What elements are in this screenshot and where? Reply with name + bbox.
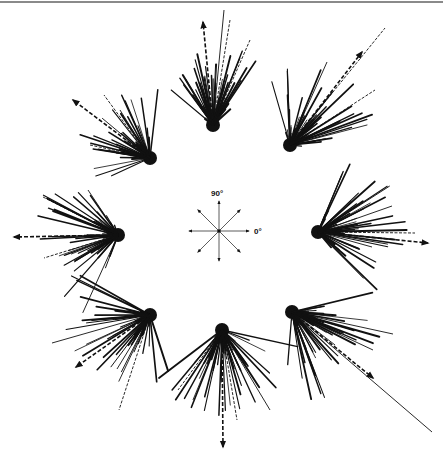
mean-direction-arrow	[73, 100, 150, 158]
direction-arrow-45	[219, 210, 240, 231]
direction-arrow-315	[219, 231, 240, 252]
fan-ray	[222, 330, 298, 347]
fan-cluster-south-east	[285, 293, 432, 432]
fan-ray	[53, 211, 118, 235]
compass-center-dot	[217, 229, 221, 233]
fan-ray	[112, 158, 150, 176]
fan-ray	[150, 90, 158, 158]
fan-cluster-east	[311, 164, 428, 289]
direction-arrow-225	[198, 231, 219, 252]
direction-key	[189, 201, 249, 261]
fan-clusters	[14, 10, 432, 447]
fan-ray	[288, 312, 292, 365]
radial-fan-figure: 90° 0°	[0, 0, 443, 454]
fan-ray	[290, 110, 291, 145]
fan-cluster-south	[159, 323, 298, 447]
label-90-degrees: 90°	[211, 189, 223, 198]
outlier-ray	[213, 40, 250, 125]
direction-arrow-135	[198, 210, 219, 231]
fan-cluster-north-west	[73, 90, 158, 176]
label-0-degrees: 0°	[254, 227, 262, 236]
fan-cluster-north	[171, 10, 255, 132]
fan-cluster-south-west	[52, 276, 168, 410]
fan-cluster-north-east	[272, 28, 385, 152]
